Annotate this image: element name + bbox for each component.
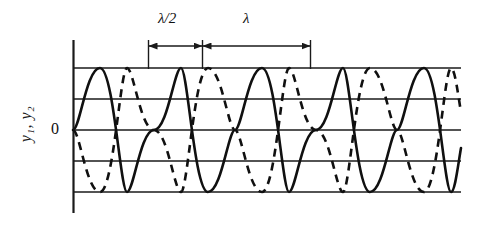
- half-wavelength-label: λ/2: [158, 11, 176, 26]
- y-axis-label: y₁, y₂: [0, 114, 57, 134]
- dimension-tick-marks: [149, 40, 311, 69]
- plot-canvas: [0, 0, 486, 227]
- origin-label: 0: [51, 121, 59, 137]
- wavelength-label: λ: [243, 11, 250, 26]
- gridlines: [73, 68, 461, 192]
- wave-interference-figure: y₁, y₂ 0 λ/2 λ: [0, 0, 486, 227]
